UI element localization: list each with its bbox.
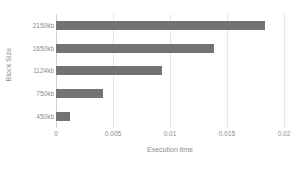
bar-450kb xyxy=(56,112,70,121)
x-axis-title: Execution time xyxy=(56,146,284,153)
y-tick-label-450kb: 450kb xyxy=(36,105,54,128)
bar-row xyxy=(56,14,284,37)
bar-row xyxy=(56,82,284,105)
bar-1650kb xyxy=(56,44,214,53)
bar-750kb xyxy=(56,89,103,98)
y-tick-label-1124kb: 1124kb xyxy=(33,60,54,83)
x-axis-tick-labels: 00.0050.010.0150.02 xyxy=(56,130,284,142)
bar-2150kb xyxy=(56,21,265,30)
x-tick-label-0.005: 0.005 xyxy=(105,130,121,137)
bar-row xyxy=(56,37,284,60)
bar-series xyxy=(56,14,284,128)
bar-1124kb xyxy=(56,66,162,75)
y-tick-label-1650kb: 1650kb xyxy=(33,37,54,60)
bar-row xyxy=(56,105,284,128)
plot-area xyxy=(56,14,284,128)
y-axis-tick-labels: 450kb750kb1124kb1650kb2150kb xyxy=(14,14,54,128)
x-tick-label-0.015: 0.015 xyxy=(219,130,235,137)
bar-row xyxy=(56,60,284,83)
x-tick-label-0.01: 0.01 xyxy=(164,130,177,137)
x-tick-label-0: 0 xyxy=(54,130,58,137)
bar-chart: Block Size 450kb750kb1124kb1650kb2150kb … xyxy=(0,0,297,170)
y-axis-title-text: Block Size xyxy=(6,47,13,81)
y-tick-label-2150kb: 2150kb xyxy=(33,14,54,37)
gridline-4 xyxy=(284,14,285,128)
y-tick-label-750kb: 750kb xyxy=(36,82,54,105)
x-tick-label-0.02: 0.02 xyxy=(278,130,291,137)
